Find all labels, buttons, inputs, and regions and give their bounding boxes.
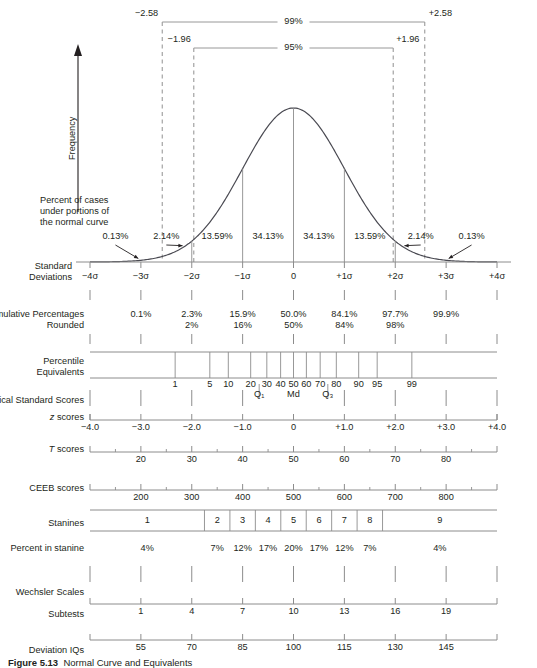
cumulative-ticklabel-1: 2.3% [181,310,202,319]
t-scores-ticklabel-3: 50 [288,455,298,464]
curve-note-line-2: the normal curve [40,218,108,227]
bracket-95-left-value: −1.96 [168,35,191,44]
quartile-marker-0: Q₁ [254,390,264,399]
t-scores-label-suffix: scores [54,444,84,454]
percentile-ticklabel-9: 80 [331,380,341,389]
sd-ticklabel-8: +4σ [489,272,505,281]
percentile-ticklabel-10: 90 [354,380,364,389]
percentile-ticklabel-3: 20 [246,380,256,389]
ceeb-scores-ticklabel-1: 300 [184,493,199,502]
z-scores-ticklabel-1: −3.0 [132,423,150,432]
cumulative-rounded-2: 50% [284,321,302,330]
percentile-equivalents-label-0: Percentile [43,357,84,366]
subtests-ticklabel-5: 16 [390,607,400,616]
area-percent-5: 13.59% [354,232,385,241]
cumulative-ticklabel-0: 0.1% [130,310,151,319]
cumulative-rounded-1: 16% [233,321,251,330]
stanine-band-5: 5 [291,516,296,525]
subtests-ticklabel-4: 13 [339,607,349,616]
z-scores-ticklabel-6: +2.0 [386,423,404,432]
z-scores-ticklabel-8: +4.0 [488,423,506,432]
ceeb-scores-label: CEEB scores [29,484,84,493]
figure-caption-number: Figure 5.13 [8,657,58,668]
wechsler-scales-label: Wechsler Scales [16,588,84,597]
percent-in-stanine-2: 12% [233,544,251,553]
cumulative-ticklabel-3: 50.0% [280,310,306,319]
ceeb-scores-ticklabel-6: 800 [438,493,453,502]
cumulative-rounded-0: 2% [185,321,198,330]
area-percent-1: 2.14% [153,232,179,241]
t-scores-ticklabel-5: 70 [390,455,400,464]
area-percent-3: 34.13% [252,232,283,241]
t-scores-ticklabel-6: 80 [441,455,451,464]
ceeb-scores-ticklabel-2: 400 [235,493,250,502]
deviation-iqs-ticklabel-6: 145 [438,643,453,652]
percent-in-stanine-8: 4% [433,544,446,553]
z-scores-label-suffix: scores [54,412,84,422]
cumulative-percentages-label-0: Cumulative Percentages [0,310,84,319]
percentile-ticklabel-5: 40 [275,380,285,389]
stanines-label: Stanines [48,519,84,528]
y-axis-label: Frequency [68,117,77,160]
stanine-band-2: 2 [215,516,220,525]
cumulative-rounded-4: 98% [386,321,404,330]
deviation-iqs-ticklabel-5: 130 [388,643,403,652]
z-scores-ticklabel-7: +3.0 [437,423,455,432]
percentile-ticklabel-1: 5 [207,380,212,389]
percent-in-stanine-4: 20% [284,544,302,553]
percentile-ticklabel-8: 70 [315,380,325,389]
tail-arrow-head-2 [404,244,408,248]
subtests-ticklabel-1: 4 [189,607,194,616]
sd-ticklabel-3: −1σ [235,272,251,281]
typical-standard-scores-label: Typical Standard Scores [0,396,84,405]
area-percent-6: 2.14% [408,232,434,241]
t-scores-ticklabel-2: 40 [238,455,248,464]
standard-deviations-label-1: Deviations [29,273,72,282]
bracket-95-label: 95% [284,43,302,52]
percent-in-stanine-label: Percent in stanine [10,544,84,553]
bracket-99-label: 99% [284,17,302,26]
ceeb-scores-ticklabel-0: 200 [133,493,148,502]
t-scores-ticklabel-0: 20 [136,455,146,464]
curve-note-line-1: under portions of [40,207,109,216]
sd-ticklabel-0: −4σ [82,272,98,281]
percentile-ticklabel-11: 95 [372,380,382,389]
cumulative-rounded-3: 84% [335,321,353,330]
percent-in-stanine-6: 12% [335,544,353,553]
t-scores-ticklabel-1: 30 [187,455,197,464]
percentile-ticklabel-7: 60 [301,380,311,389]
area-percent-7: 0.13% [459,232,485,241]
subtests-ticklabel-3: 10 [288,607,298,616]
standard-deviations-label-0: Standard [35,262,72,271]
area-percent-2: 13.59% [202,232,233,241]
cumulative-ticklabel-4: 84.1% [331,310,357,319]
z-scores-ticklabel-3: −1.0 [234,423,252,432]
deviation-iqs-ticklabel-0: 55 [136,643,146,652]
stanine-band-1: 1 [145,516,150,525]
stanine-band-9: 9 [437,516,442,525]
stanine-band-4: 4 [266,516,271,525]
sd-ticklabel-1: −3σ [133,272,149,281]
quartile-marker-2: Q₃ [322,390,333,399]
ceeb-scores-ticklabel-3: 500 [286,493,301,502]
figure-caption-text: Normal Curve and Equivalents [63,657,192,668]
percent-in-stanine-7: 7% [363,544,376,553]
z-scores-ticklabel-5: +1.0 [335,423,353,432]
percentile-ticklabel-4: 30 [262,380,272,389]
area-percent-0: 0.13% [102,232,128,241]
deviation-iqs-label: Deviation IQs [29,646,84,655]
t-scores-ticklabel-4: 60 [339,455,349,464]
sd-ticklabel-7: +3σ [438,272,454,281]
cumulative-ticklabel-6: 99.9% [433,310,459,319]
percentile-ticklabel-12: 99 [407,380,417,389]
sd-ticklabel-6: +2σ [387,272,403,281]
cumulative-ticklabel-2: 15.9% [230,310,256,319]
figure-caption: Figure 5.13 Normal Curve and Equivalents [8,657,192,668]
curve-note-line-0: Percent of cases [40,196,108,205]
z-scores-label: z scores [50,413,84,422]
subtests-ticklabel-2: 7 [240,607,245,616]
bracket-95-right-value: +1.96 [396,35,419,44]
z-scores-ticklabel-2: −2.0 [183,423,201,432]
